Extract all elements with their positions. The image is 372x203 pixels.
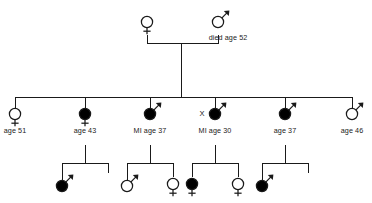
female-unaffected-symbol-icon <box>225 174 251 200</box>
male-affected-symbol-icon <box>251 170 277 196</box>
male-unaffected-symbol-icon <box>341 98 367 124</box>
mating-line <box>147 43 219 44</box>
sibship-drop-gen3-3 <box>285 145 286 164</box>
sibship-bar-gen2 <box>15 97 353 98</box>
child-stub-empty-III-2 <box>108 163 109 173</box>
label-died-age-52: died age 52 <box>209 34 248 41</box>
label-II-1: age 51 <box>4 127 27 134</box>
male-affected-symbol-icon <box>139 98 165 124</box>
descent-line-gen1-gen2 <box>181 43 182 98</box>
sibship-drop-gen3-1 <box>150 145 151 164</box>
female-affected-symbol-icon <box>179 174 205 200</box>
proband-x-marker: X <box>199 110 204 118</box>
male-unaffected-symbol-icon <box>207 6 233 32</box>
male-affected-symbol-icon <box>274 98 300 124</box>
label-II-4: MI age 30 <box>199 127 232 134</box>
male-affected-symbol-icon <box>204 98 230 124</box>
male-unaffected-symbol-icon <box>116 170 142 196</box>
sibship-drop-gen3-2 <box>215 145 216 164</box>
pedigree-chart: died age 52age 51age 43MI age 37MI age 3… <box>0 0 372 203</box>
label-II-5: age 37 <box>274 127 297 134</box>
child-stub-empty-III-8 <box>308 163 309 173</box>
female-unaffected-symbol-icon <box>134 12 160 38</box>
label-II-3: MI age 37 <box>134 127 167 134</box>
label-II-2: age 43 <box>74 127 97 134</box>
sibship-bar-gen3-0 <box>62 163 109 164</box>
label-II-6: age 46 <box>341 127 364 134</box>
sibship-bar-gen3-2 <box>192 163 239 164</box>
sibship-bar-gen3-1 <box>127 163 174 164</box>
sibship-bar-gen3-3 <box>262 163 309 164</box>
male-affected-symbol-icon <box>51 170 77 196</box>
sibship-drop-gen3-0 <box>85 145 86 164</box>
